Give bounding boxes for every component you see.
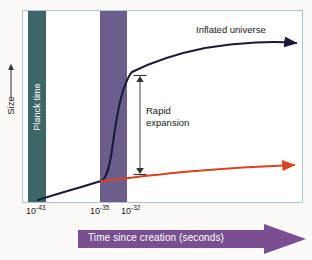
x-tick-base-1: 10: [90, 206, 100, 216]
figure-canvas: Planck time: [0, 0, 312, 260]
time-axis-title: Time since creation (seconds): [88, 232, 224, 243]
time-axis-arrow: Time since creation (seconds): [78, 224, 306, 254]
x-tick-base-0: 10: [26, 206, 36, 216]
rapid-expansion-line-2: expansion: [146, 117, 189, 129]
rapid-expansion-line-1: Rapid: [146, 105, 189, 117]
x-tick-label-0: 10-43: [26, 206, 45, 216]
y-axis-label: Size: [1, 100, 19, 111]
curves-layer: [0, 0, 312, 260]
y-axis-label-text: Size: [5, 96, 16, 114]
x-tick-exponent-2: -32: [131, 204, 140, 211]
x-tick-base-2: 10: [121, 206, 131, 216]
size-axis-arrow: [8, 64, 14, 99]
inflation-cosmology-figure: Planck time: [0, 0, 312, 260]
x-tick-label-1: 10-35: [90, 206, 109, 216]
x-tick-exponent-1: -35: [100, 204, 109, 211]
inflated-universe-label: Inflated universe: [196, 24, 266, 35]
rapid-expansion-label: Rapid expansion: [146, 105, 189, 128]
standard-universe-curve: [101, 165, 294, 181]
x-tick-exponent-0: -43: [36, 204, 45, 211]
x-tick-label-2: 10-32: [121, 206, 140, 216]
rapid-expansion-arrow: [134, 76, 147, 175]
